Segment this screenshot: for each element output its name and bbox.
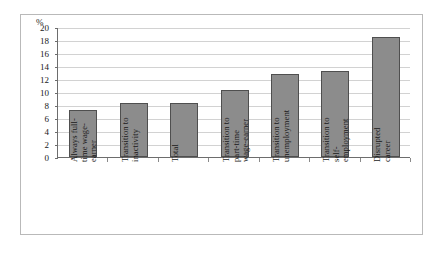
- x-axis-tick-mark: [107, 158, 108, 162]
- x-axis-tick-mark: [410, 158, 411, 162]
- x-axis-tick-label: Total: [171, 86, 181, 162]
- y-axis-tick-mark: [55, 158, 58, 159]
- x-axis-tick-mark: [309, 158, 310, 162]
- x-axis-tick-label: Transition to part-time wage-earner: [222, 86, 251, 162]
- x-axis-tick-mark: [158, 158, 159, 162]
- x-axis-label-group: Transition to part-time wage-earner: [222, 86, 236, 162]
- y-axis-tick-label: 2: [3, 141, 49, 150]
- y-axis-tick-mark: [55, 119, 58, 120]
- y-axis-tick-mark: [55, 106, 58, 107]
- y-axis-tick-mark: [55, 132, 58, 133]
- y-axis-tick-label: 6: [3, 115, 49, 124]
- x-axis-tick-label: Transition to inactivity: [121, 86, 140, 162]
- gridline: [58, 80, 410, 81]
- y-axis-tick-mark: [55, 145, 58, 146]
- x-axis-label-group: Transition to self- employment: [322, 86, 336, 162]
- x-axis-label-group: Always full- time wage- earner: [70, 86, 84, 162]
- x-axis-tick-label: Transition to self- employment: [322, 86, 351, 162]
- x-axis-tick-label: Disrupted career: [373, 86, 392, 162]
- x-axis-label-group: Transition to unemployment: [272, 86, 286, 162]
- y-axis-tick-label: 20: [3, 24, 49, 33]
- y-axis-tick-mark: [55, 93, 58, 94]
- gridline: [58, 28, 410, 29]
- y-axis-tick-mark: [55, 28, 58, 29]
- x-axis-label-group: Total: [171, 86, 185, 162]
- y-axis-tick-mark: [55, 80, 58, 81]
- x-axis-label-group: Transition to inactivity: [121, 86, 135, 162]
- x-axis-tick-mark: [208, 158, 209, 162]
- y-axis-tick-label: 8: [3, 102, 49, 111]
- y-axis-tick-label: 4: [3, 128, 49, 137]
- x-axis-label-group: Disrupted career: [373, 86, 387, 162]
- y-axis-tick-label: 14: [3, 63, 49, 72]
- x-axis-tick-label: Always full- time wage- earner: [70, 86, 99, 162]
- y-axis-tick-mark: [55, 67, 58, 68]
- x-axis-tick-mark: [259, 158, 260, 162]
- x-axis-tick-mark: [360, 158, 361, 162]
- y-axis-tick-label: 10: [3, 89, 49, 98]
- y-axis-tick-mark: [55, 41, 58, 42]
- y-axis-tick-mark: [55, 54, 58, 55]
- y-axis-tick-label: 12: [3, 76, 49, 85]
- chart-figure: % 02468101214161820 Always full- time wa…: [0, 0, 443, 254]
- gridline: [58, 54, 410, 55]
- gridline: [58, 67, 410, 68]
- x-axis-tick-label: Transition to unemployment: [272, 86, 291, 162]
- gridline: [58, 41, 410, 42]
- y-axis-tick-label: 18: [3, 37, 49, 46]
- y-axis-tick-label: 16: [3, 50, 49, 59]
- y-axis-tick-label: 0: [3, 154, 49, 163]
